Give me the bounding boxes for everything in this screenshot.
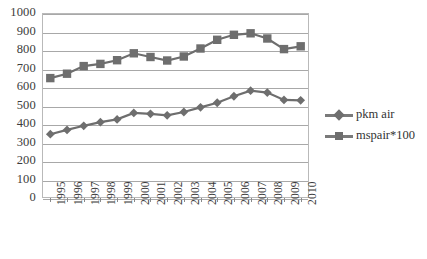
x-axis-tick xyxy=(67,198,68,202)
y-axis-tick-label: 400 xyxy=(0,117,36,129)
x-axis-tick xyxy=(201,198,202,202)
data-point-square xyxy=(96,60,104,68)
data-point-diamond xyxy=(63,126,72,135)
y-axis-tick-label: 900 xyxy=(0,25,36,37)
x-axis-tick xyxy=(167,198,168,202)
x-axis-tick xyxy=(251,198,252,202)
data-point-diamond xyxy=(296,96,305,105)
chart-figure: 10009008007006005004003002001000 1995199… xyxy=(0,0,427,259)
y-axis-tick-label: 1000 xyxy=(0,6,36,18)
x-axis-tick xyxy=(217,198,218,202)
data-point-diamond xyxy=(163,111,172,120)
data-point-square xyxy=(146,53,154,61)
x-axis-tick xyxy=(150,198,151,202)
data-point-diamond xyxy=(179,108,188,117)
x-axis-tick xyxy=(134,198,135,202)
x-axis-tick xyxy=(100,198,101,202)
data-point-square xyxy=(113,56,121,64)
x-axis-tick xyxy=(267,198,268,202)
x-axis-tick xyxy=(284,198,285,202)
data-point-square xyxy=(130,49,138,57)
y-axis-tick-label: 600 xyxy=(0,80,36,92)
legend-item-mspair[interactable]: mspair*100 xyxy=(325,125,415,146)
data-point-diamond xyxy=(196,103,205,112)
data-point-square xyxy=(63,70,71,78)
diamond-marker-icon xyxy=(325,109,353,121)
data-point-diamond xyxy=(230,92,239,101)
y-axis-tick-label: 700 xyxy=(0,62,36,74)
y-axis-tick-label: 300 xyxy=(0,136,36,148)
y-axis-tick-label: 500 xyxy=(0,99,36,111)
data-point-diamond xyxy=(213,98,222,107)
data-point-diamond xyxy=(129,109,138,118)
x-axis-tick xyxy=(301,198,302,202)
data-point-square xyxy=(196,44,204,52)
legend-label-series1: pkm air xyxy=(356,107,395,122)
legend-label-series2: mspair*100 xyxy=(356,128,415,143)
data-point-square xyxy=(280,45,288,53)
data-point-diamond xyxy=(280,96,289,105)
square-marker-icon xyxy=(325,130,353,142)
y-axis-tick-label: 200 xyxy=(0,154,36,166)
data-point-square xyxy=(163,56,171,64)
chart-legend: pkm air mspair*100 xyxy=(325,104,415,146)
data-point-square xyxy=(213,36,221,44)
series-line-1 xyxy=(50,91,300,135)
data-point-diamond xyxy=(113,115,122,124)
data-point-square xyxy=(46,74,54,82)
data-point-diamond xyxy=(246,86,255,95)
data-point-square xyxy=(297,42,305,50)
y-axis-tick-label: 0 xyxy=(0,191,36,203)
data-point-diamond xyxy=(79,121,88,130)
data-point-diamond xyxy=(96,118,105,127)
legend-label-series2-text: mspair*100 xyxy=(356,128,415,142)
x-axis-tick xyxy=(50,198,51,202)
data-point-diamond xyxy=(46,130,55,139)
data-point-square xyxy=(263,34,271,42)
legend-item-pkm-air[interactable]: pkm air xyxy=(325,104,415,125)
data-point-square xyxy=(80,62,88,70)
y-axis-tick-label: 800 xyxy=(0,43,36,55)
x-axis-tick xyxy=(234,198,235,202)
data-point-square xyxy=(246,29,254,37)
y-axis-tick-label: 100 xyxy=(0,173,36,185)
x-axis-tick xyxy=(84,198,85,202)
x-axis-tick xyxy=(184,198,185,202)
data-point-square xyxy=(230,31,238,39)
series-lines xyxy=(42,13,309,198)
data-point-diamond xyxy=(263,88,272,97)
data-point-square xyxy=(180,52,188,60)
x-axis-tick xyxy=(117,198,118,202)
data-point-diamond xyxy=(146,109,155,118)
